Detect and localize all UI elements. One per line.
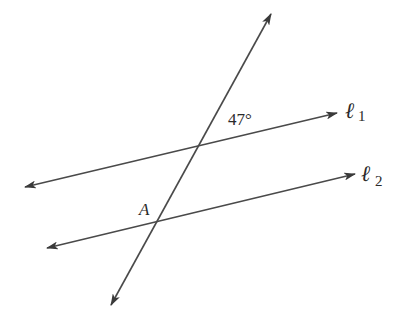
line-label-l2-main: ℓ xyxy=(361,161,371,186)
line-label-l2-subscript: 2 xyxy=(375,173,383,189)
line-l1 xyxy=(25,113,337,187)
line-label-l2: ℓ 2 xyxy=(361,161,383,189)
point-label-a: A xyxy=(138,200,150,219)
line-label-l1-main: ℓ xyxy=(345,98,355,123)
line-l2 xyxy=(47,174,355,248)
parallel-lines-diagram: 47° A ℓ 1 ℓ 2 xyxy=(0,0,397,322)
transversal-line xyxy=(111,14,271,305)
line-label-l1: ℓ 1 xyxy=(345,98,366,124)
line-label-l1-subscript: 1 xyxy=(358,108,366,124)
angle-label: 47° xyxy=(228,110,252,129)
